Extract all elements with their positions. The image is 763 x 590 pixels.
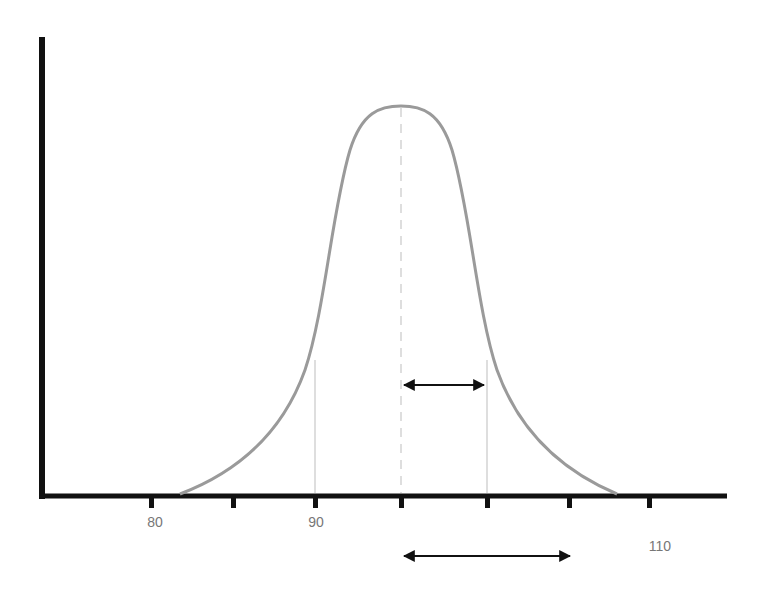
x-tick-label-80: 80 bbox=[147, 514, 163, 530]
x-tick-label-90: 90 bbox=[308, 514, 324, 530]
tick-mark bbox=[231, 496, 236, 508]
bell-curve-diagram: 80 90 110 bbox=[0, 0, 763, 590]
x-tick-label-110: 110 bbox=[649, 538, 671, 554]
bell-curve bbox=[180, 106, 617, 494]
tick-mark bbox=[485, 496, 490, 508]
tick-mark bbox=[313, 496, 318, 508]
tick-mark bbox=[647, 496, 652, 508]
tick-mark bbox=[149, 496, 154, 508]
tick-mark bbox=[567, 496, 572, 508]
diagram-canvas bbox=[0, 0, 763, 590]
tick-mark bbox=[399, 496, 404, 508]
